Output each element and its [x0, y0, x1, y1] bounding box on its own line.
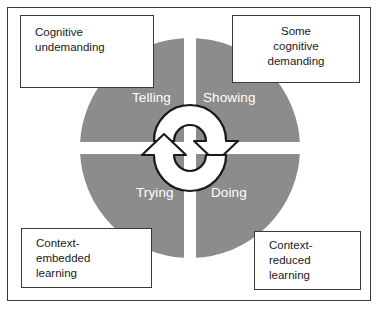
caption-line: Some: [233, 24, 359, 39]
caption-line: undemanding: [35, 40, 153, 55]
caption-box-top-left: Cognitive undemanding: [20, 15, 154, 88]
caption-box-top-right: Some cognitive demanding: [232, 15, 360, 83]
caption-line: reduced: [269, 253, 360, 268]
caption-line: learning: [36, 266, 151, 281]
quadrant-label-telling: Telling: [132, 90, 171, 105]
caption-line: Context-: [269, 238, 360, 253]
caption-line: Context-: [36, 236, 151, 251]
caption-line: embedded: [36, 251, 151, 266]
quadrant-label-showing: Showing: [203, 90, 256, 105]
caption-line: demanding: [233, 54, 359, 69]
caption-line: cognitive: [233, 39, 359, 54]
diagram-root: Telling Showing Trying Doing Cognitive u…: [0, 0, 380, 309]
caption-line: Cognitive: [35, 25, 153, 40]
caption-line: learning: [269, 268, 360, 283]
quadrant-label-doing: Doing: [211, 185, 247, 200]
caption-box-bottom-right: Context- reduced learning: [254, 231, 361, 290]
caption-box-bottom-left: Context- embedded learning: [21, 228, 152, 288]
quadrant-label-trying: Trying: [136, 185, 174, 200]
